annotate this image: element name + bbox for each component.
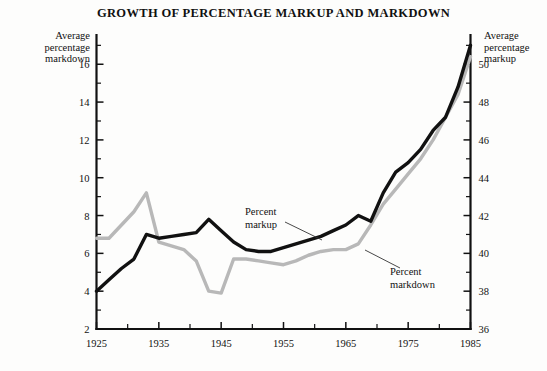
x-tick-label: 1975 [398, 338, 419, 349]
x-tick-label: 1925 [86, 338, 107, 349]
series-line-percent-markdown [97, 57, 471, 293]
left-tick-label: 16 [79, 59, 90, 70]
annotation-markdown-line2: markdown [390, 279, 436, 290]
plot-area: 246810121416 3638404244464850 1925193519… [0, 0, 547, 371]
left-axis-tick-labels: 246810121416 [79, 59, 90, 335]
left-tick-label: 4 [84, 286, 90, 297]
right-tick-label: 38 [479, 286, 490, 297]
left-tick-label: 12 [79, 135, 90, 146]
right-tick-label: 46 [479, 135, 490, 146]
left-tick-label: 2 [84, 324, 89, 335]
x-tick-label: 1955 [273, 338, 294, 349]
right-tick-label: 36 [479, 324, 490, 335]
annotation-leader-markup [285, 222, 322, 240]
right-tick-label: 50 [479, 59, 490, 70]
right-tick-label: 42 [479, 211, 490, 222]
right-tick-label: 48 [479, 97, 490, 108]
right-tick-label: 40 [479, 248, 490, 259]
annotation-markup-line1: Percent [245, 206, 277, 217]
left-tick-label: 10 [79, 173, 90, 184]
annotation-markup-line2: markup [245, 219, 277, 230]
x-tick-label: 1945 [211, 338, 232, 349]
x-axis-tick-labels: 1925193519451955196519751985 [86, 338, 481, 349]
left-tick-label: 6 [84, 248, 89, 259]
x-tick-label: 1935 [148, 338, 169, 349]
x-tick-label: 1965 [335, 338, 356, 349]
annotation-markdown-line1: Percent [390, 266, 422, 277]
right-axis-tick-labels: 3638404244464850 [479, 59, 490, 335]
left-tick-label: 8 [84, 211, 89, 222]
x-tick-label: 1985 [460, 338, 481, 349]
right-tick-label: 44 [479, 173, 490, 184]
chart-figure: GROWTH OF PERCENTAGE MARKUP AND MARKDOWN… [0, 0, 547, 371]
left-tick-label: 14 [79, 97, 90, 108]
